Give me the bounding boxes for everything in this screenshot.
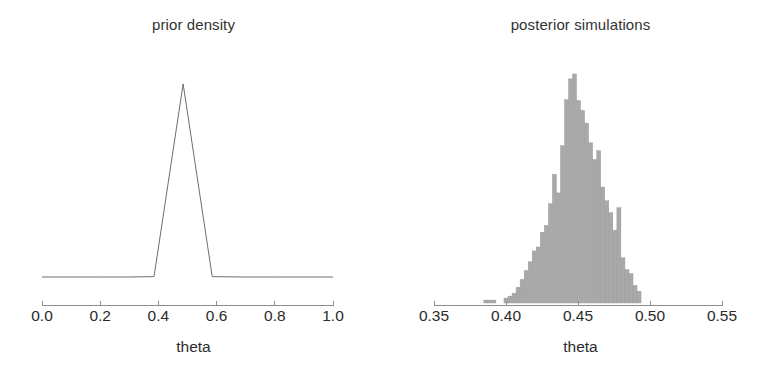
posterior-x-axis-label: theta xyxy=(387,338,774,356)
histogram-bar xyxy=(564,100,568,303)
histogram-bar xyxy=(613,230,617,303)
x-tick-label: 0.2 xyxy=(89,307,111,325)
x-tick-label: 0.8 xyxy=(264,307,286,325)
prior-x-tick-labels: 0.00.20.40.60.81.0 xyxy=(0,307,387,329)
histogram-bar xyxy=(556,193,560,303)
histogram-bar xyxy=(629,274,633,303)
histogram-bar xyxy=(573,74,577,303)
histogram-bar xyxy=(524,271,528,303)
histogram-bar xyxy=(617,208,621,303)
axis-spine xyxy=(42,301,333,305)
histogram-bar xyxy=(593,159,597,303)
histogram-bar xyxy=(637,291,641,303)
histogram-bar xyxy=(601,187,605,303)
histogram-bar xyxy=(532,251,536,303)
histogram-bar xyxy=(512,293,516,303)
histogram-bar xyxy=(621,258,625,303)
histogram-bar xyxy=(589,143,593,303)
histogram-bars xyxy=(484,74,641,303)
histogram-bar xyxy=(569,79,573,303)
x-tick-label: 0.35 xyxy=(419,307,449,325)
panel-posterior-title: posterior simulations xyxy=(387,16,774,33)
prior-x-axis xyxy=(42,301,333,305)
histogram-bar xyxy=(577,101,581,303)
histogram-bar xyxy=(492,300,496,303)
histogram-bar xyxy=(597,151,601,303)
x-tick-label: 0.40 xyxy=(491,307,521,325)
panel-posterior-simulations: posterior simulations 0.350.400.450.500.… xyxy=(387,0,774,376)
histogram-bar xyxy=(504,298,508,303)
histogram-bar xyxy=(560,146,564,303)
x-tick-label: 0.4 xyxy=(148,307,170,325)
figure-container: prior density 0.00.20.40.60.81.0 theta p… xyxy=(0,0,774,376)
histogram-bar xyxy=(544,225,548,303)
histogram-bar xyxy=(520,279,524,303)
histogram-bar xyxy=(536,247,540,303)
prior-x-axis-label: theta xyxy=(0,338,387,356)
x-tick-label: 0.45 xyxy=(563,307,593,325)
axis-spine xyxy=(434,301,722,305)
histogram-bar xyxy=(633,285,637,303)
prior-density-curve xyxy=(42,84,333,277)
posterior-x-tick-labels: 0.350.400.450.500.55 xyxy=(387,307,774,329)
histogram-bar xyxy=(609,213,613,303)
histogram-bar xyxy=(548,204,552,303)
histogram-bar xyxy=(484,300,488,303)
histogram-bar xyxy=(625,270,629,303)
histogram-bar xyxy=(528,262,532,303)
panel-prior-title: prior density xyxy=(0,16,387,33)
histogram-bar xyxy=(552,174,556,303)
histogram-bar xyxy=(540,232,544,303)
histogram-bar xyxy=(508,296,512,303)
histogram-bar xyxy=(581,110,585,303)
panel-prior-density: prior density 0.00.20.40.60.81.0 theta xyxy=(0,0,387,376)
histogram-bar xyxy=(605,201,609,303)
x-tick-label: 1.0 xyxy=(322,307,344,325)
histogram-bar xyxy=(488,300,492,303)
x-tick-label: 0.0 xyxy=(31,307,53,325)
x-tick-label: 0.50 xyxy=(635,307,665,325)
x-tick-label: 0.6 xyxy=(206,307,228,325)
histogram-bar xyxy=(516,287,520,303)
histogram-bar xyxy=(585,123,589,303)
x-tick-label: 0.55 xyxy=(707,307,737,325)
posterior-x-axis xyxy=(434,301,722,305)
